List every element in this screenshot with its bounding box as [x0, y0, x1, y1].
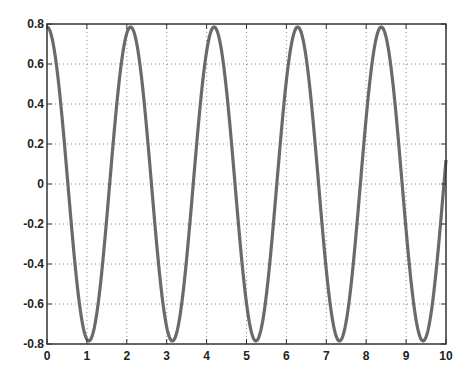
- y-tick-label: 0.8: [27, 17, 44, 31]
- x-tick-label: 1: [84, 349, 91, 363]
- x-tick-label: 4: [203, 349, 210, 363]
- y-tick-label: -0.6: [23, 297, 44, 311]
- line-chart: 012345678910 0.80.60.40.20-0.2-0.4-0.6-0…: [0, 0, 466, 376]
- y-tick-label: 0: [37, 177, 44, 191]
- y-tick-label: -0.2: [23, 217, 44, 231]
- y-tick-label: 0.6: [27, 57, 44, 71]
- x-tick-label: 10: [439, 349, 453, 363]
- x-tick-label: 0: [44, 349, 51, 363]
- chart-background: [0, 0, 466, 376]
- x-tick-label: 8: [363, 349, 370, 363]
- x-tick-label: 3: [163, 349, 170, 363]
- x-tick-label: 6: [283, 349, 290, 363]
- y-tick-label: 0.4: [27, 97, 44, 111]
- y-tick-label: -0.4: [23, 257, 44, 271]
- x-tick-label: 9: [403, 349, 410, 363]
- x-tick-label: 7: [323, 349, 330, 363]
- x-tick-label: 2: [123, 349, 130, 363]
- y-tick-label: 0.2: [27, 137, 44, 151]
- y-tick-label: -0.8: [23, 337, 44, 351]
- x-tick-label: 5: [243, 349, 250, 363]
